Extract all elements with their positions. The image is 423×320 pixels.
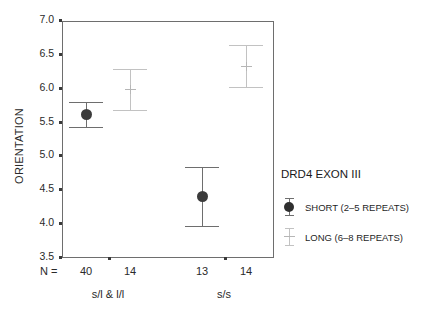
group-label-2: s/s <box>164 288 284 300</box>
y-tick-label: 5.5 <box>20 115 54 127</box>
n-value-3: 13 <box>182 265 222 277</box>
chart-figure: ORIENTATION 7.06.56.05.55.04.54.03.5 N =… <box>0 0 423 320</box>
n-value-1: 40 <box>66 265 106 277</box>
y-axis-title: ORIENTATION <box>13 71 25 221</box>
y-tick-label: 7.0 <box>20 13 54 25</box>
y-tick-label: 3.5 <box>20 250 54 262</box>
mean-marker-dot <box>81 109 92 120</box>
error-bar-cap-lower <box>113 110 147 111</box>
x-tick-mark-1 <box>108 257 111 260</box>
legend-item-long[interactable]: LONG (6–8 REPEATS) <box>281 222 423 252</box>
legend-label-long: LONG (6–8 REPEATS) <box>305 232 403 243</box>
legend-item-short[interactable]: SHORT (2–5 REPEATS) <box>281 192 423 222</box>
error-bar-cap-lower <box>229 87 263 88</box>
mean-marker-cross-v <box>130 85 131 94</box>
n-prefix-label: N = <box>40 265 57 277</box>
error-bar-cap-lower <box>69 127 103 128</box>
legend: DRD4 EXON III SHORT (2–5 REPEATS) LONG (… <box>281 168 423 252</box>
x-tick-mark-2 <box>224 257 227 260</box>
group-label-1: s/l & l/l <box>48 288 168 300</box>
mean-marker-cross-v <box>246 62 247 71</box>
error-bar-cap-lower <box>185 226 219 227</box>
mean-marker-dot <box>197 191 208 202</box>
plot-data-area <box>62 21 274 258</box>
legend-label-short: SHORT (2–5 REPEATS) <box>305 202 409 213</box>
y-tick-label: 5.0 <box>20 148 54 160</box>
y-tick-label: 6.5 <box>20 47 54 59</box>
y-tick-label: 4.5 <box>20 182 54 194</box>
short-marker-icon <box>281 196 299 218</box>
legend-title: DRD4 EXON III <box>281 168 423 180</box>
long-marker-icon <box>281 226 299 248</box>
n-value-4: 14 <box>226 265 266 277</box>
y-tick-label: 6.0 <box>20 81 54 93</box>
y-tick-label: 4.0 <box>20 216 54 228</box>
n-value-2: 14 <box>110 265 150 277</box>
